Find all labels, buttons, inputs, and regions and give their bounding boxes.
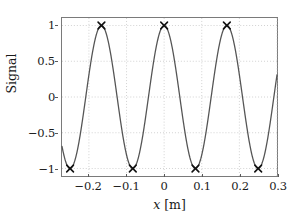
y-tick-mark (55, 97, 58, 98)
y-tick-mark (55, 169, 58, 170)
y-tick-label: 1 (48, 18, 55, 32)
x-tick-mark (164, 174, 165, 177)
x-tick-mark (202, 174, 203, 177)
x-axis-title: x [m] (61, 197, 278, 212)
x-axis-title-unit: [m] (160, 197, 186, 212)
y-tick-label: 0.5 (37, 54, 55, 68)
marker-x (129, 165, 136, 172)
marker-x (255, 165, 262, 172)
x-tick-label: 0 (161, 179, 168, 193)
x-tick-label: −0.1 (113, 179, 140, 193)
x-tick-label: 0.1 (193, 179, 211, 193)
y-tick-label: 0 (48, 90, 55, 104)
x-tick-label: 0.3 (269, 179, 287, 193)
x-tick-mark (240, 174, 241, 177)
marker-x (67, 165, 74, 172)
x-tick-label: −0.2 (75, 179, 102, 193)
y-axis-title: Signal (4, 39, 19, 109)
y-tick-mark (55, 61, 58, 62)
y-tick-label: −1 (38, 162, 55, 176)
x-axis-tick-labels: −0.2−0.100.10.20.3 (61, 179, 278, 197)
x-tick-mark (278, 174, 279, 177)
x-tick-mark (88, 174, 89, 177)
y-tick-label: −0.5 (28, 126, 55, 140)
y-tick-mark (55, 133, 58, 134)
marker-x (161, 22, 168, 29)
extrema-markers (62, 18, 277, 176)
y-tick-mark (55, 25, 58, 26)
plot-area (61, 17, 278, 177)
x-tick-label: 0.2 (231, 179, 249, 193)
marker-x (98, 22, 105, 29)
marker-x (192, 165, 199, 172)
signal-plot-figure: 10.50−0.5−1 −0.2−0.100.10.20.3 Signal x … (0, 0, 293, 222)
marker-x (223, 22, 230, 29)
x-tick-mark (126, 174, 127, 177)
